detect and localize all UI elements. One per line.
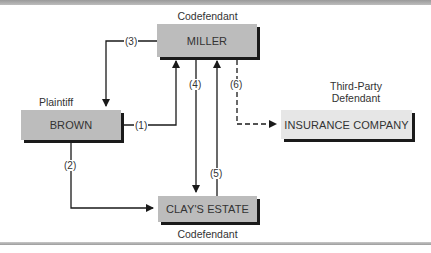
edge-label-4: (4): [188, 79, 202, 90]
edge-label-6: (6): [229, 79, 243, 90]
edge-label-3: (3): [124, 36, 138, 47]
edge-2: [71, 140, 153, 208]
edge-label-1: (1): [134, 120, 148, 131]
bottom-border: [0, 242, 431, 245]
edge-label-5: (5): [209, 168, 223, 179]
edge-6: [237, 60, 276, 124]
node-miller-label: MILLER: [187, 35, 227, 47]
edge-3: [106, 41, 157, 106]
node-clays-estate[interactable]: CLAY'S ESTATE: [158, 196, 257, 222]
edge-label-2: (2): [63, 160, 77, 171]
edge-1: [121, 61, 176, 125]
node-insurance-company-label: INSURANCE COMPANY: [284, 119, 408, 131]
miller-role-label: Codefendant: [157, 10, 258, 22]
insurance-role-label: Third-Party Defendant: [316, 80, 396, 104]
node-brown-label: BROWN: [50, 119, 93, 131]
clays-estate-role-label: Codefendant: [157, 228, 258, 240]
node-miller[interactable]: MILLER: [157, 24, 257, 57]
node-brown[interactable]: BROWN: [21, 110, 121, 140]
insurance-role-line1: Third-Party: [316, 80, 396, 92]
node-clays-estate-label: CLAY'S ESTATE: [166, 203, 249, 215]
brown-role-label: Plaintiff: [21, 96, 91, 108]
insurance-role-line2: Defendant: [316, 92, 396, 104]
node-insurance-company[interactable]: INSURANCE COMPANY: [281, 110, 412, 139]
